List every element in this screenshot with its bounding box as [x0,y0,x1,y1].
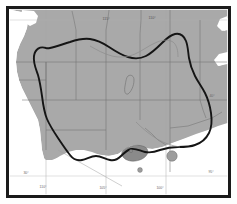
marker-2 [138,168,143,173]
top-label-1: 110° [148,16,156,20]
map-content: 115° 110° 30° 110° 105° 100° 95° 40° [10,10,228,195]
bottom-label-2: 105° [99,186,107,190]
map-canvas: 115° 110° 30° 110° 105° 100° 95° 40° [0,0,237,204]
marker-3 [129,149,132,152]
bottom-label-0: 30° [23,171,29,175]
top-label-0: 115° [102,17,110,21]
bottom-label-1: 110° [40,185,47,189]
bottom-label-4: 95° [208,170,214,174]
marker-1 [167,151,177,161]
bottom-label-3: 100° [156,186,164,190]
map-figure: 115° 110° 30° 110° 105° 100° 95° 40° [0,0,237,204]
right-label-0: 40° [209,94,215,98]
